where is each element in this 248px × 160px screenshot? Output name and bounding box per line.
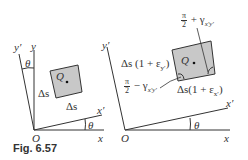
point-q-left [66,81,69,84]
x-prime-axis-right [125,108,228,130]
side-bottom-label-left: Δs [66,101,77,112]
y-prime-label-right: y′ [102,40,109,51]
y-label-left: y [31,41,36,52]
side-left-label-right: Δs (1 + εy′) [121,58,169,72]
x-prime-label-right: x′ [226,98,233,109]
y-prime-label-left: y′ [14,42,21,53]
angle-bottom-label: π2 − γx′y′ [124,78,157,95]
side-left-label-left: Δs [38,88,49,99]
theta-arc-bottom-left [85,119,86,130]
theta-label-left-bottom: θ [88,120,93,131]
element-parallelogram-right [172,41,215,81]
theta-label-right: θ [194,120,199,131]
q-label-right: Q [181,55,189,66]
x-label-left: x [98,133,103,144]
side-bottom-label-right: Δs(1 + εx′) [177,84,223,98]
origin-label-right: O [121,133,129,144]
figure-caption: Fig. 6.57 [13,142,57,154]
q-label-left: Q [56,71,64,82]
x-label-right: x [224,133,229,144]
angle-top-label: π2 + γx′y′ [181,12,214,29]
theta-label-left-top: θ [25,58,30,69]
x-prime-label-left: x′ [97,105,104,116]
theta-arc-right [190,118,191,130]
point-q-right [193,62,196,65]
